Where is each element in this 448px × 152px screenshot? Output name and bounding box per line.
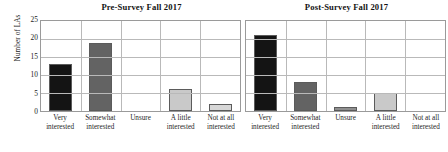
bar-slot [286, 21, 326, 111]
x-tick-label-line: interested [81, 123, 119, 132]
x-tick-label-line: Unsure [326, 114, 364, 123]
gridline-vertical [405, 21, 406, 111]
x-tick-label: Not at allinterested [201, 114, 241, 133]
x-tick-label-line: interested [162, 123, 200, 132]
x-tick-label-line: Very [41, 114, 79, 123]
x-tick-label-line: Not at all [202, 114, 240, 123]
x-tick-label-line: interested [246, 123, 284, 132]
plot-area-post-survey [245, 20, 446, 112]
x-tick-label-line: Somewhat [286, 114, 324, 123]
x-tick-label-line: interested [286, 123, 324, 132]
bar-slot [121, 21, 161, 111]
x-tick-label: Unsure [120, 114, 160, 133]
y-axis: Number of LAs 2520151050 [0, 0, 40, 152]
panel-title-pre-survey: Pre-Survey Fall 2017 [40, 2, 243, 12]
gridline-horizontal [41, 93, 240, 94]
x-tick-label-line: A little [162, 114, 200, 123]
x-tick-label-line: Unsure [121, 114, 159, 123]
bar-slot [405, 21, 445, 111]
y-tick-label: 15 [16, 53, 38, 60]
x-tick-label-line: interested [367, 123, 405, 132]
bar [334, 107, 357, 111]
bar [294, 82, 317, 111]
bar [49, 64, 72, 111]
x-axis-labels-post-survey: VeryinterestedSomewhatinterestedUnsureA … [245, 114, 446, 133]
gridline-vertical [286, 21, 287, 111]
x-tick-label: Somewhatinterested [80, 114, 120, 133]
gridline-vertical [200, 21, 201, 111]
gridline-horizontal [246, 75, 445, 76]
gridline-horizontal [246, 93, 445, 94]
gridline-vertical [326, 21, 327, 111]
x-tick-label-line: Somewhat [81, 114, 119, 123]
bar-group-pre-survey [41, 21, 240, 111]
gridline-vertical [81, 21, 82, 111]
panel-pre-survey: Pre-Survey Fall 2017 VeryinterestedSomew… [40, 0, 243, 152]
y-tick-label: 10 [16, 71, 38, 78]
gridline-vertical [160, 21, 161, 111]
bar [209, 104, 232, 111]
gridline-horizontal [246, 57, 445, 58]
bar [254, 35, 277, 111]
x-tick-label: A littleinterested [161, 114, 201, 133]
x-tick-label-line: interested [407, 123, 445, 132]
x-tick-label-line: A little [367, 114, 405, 123]
bar-slot [365, 21, 405, 111]
gridline-horizontal [41, 57, 240, 58]
panel-title-post-survey: Post-Survey Fall 2017 [245, 2, 448, 12]
x-tick-label-line: interested [41, 123, 79, 132]
gridline-horizontal [41, 75, 240, 76]
bar-slot [41, 21, 81, 111]
bar-slot [200, 21, 240, 111]
bar-slot [246, 21, 286, 111]
two-panel-bar-chart-figure: Number of LAs 2520151050 Pre-Survey Fall… [0, 0, 448, 152]
x-tick-label: Somewhatinterested [285, 114, 325, 133]
y-axis-tick-labels: 2520151050 [16, 20, 38, 112]
bar [374, 93, 397, 111]
x-tick-label: A littleinterested [366, 114, 406, 133]
y-tick-label: 25 [16, 16, 38, 23]
y-tick-label: 5 [16, 90, 38, 97]
x-tick-label: Not at allinterested [406, 114, 446, 133]
bar-slot [81, 21, 121, 111]
x-tick-label: Veryinterested [40, 114, 80, 133]
x-tick-label-line: interested [202, 123, 240, 132]
bar-slot [326, 21, 366, 111]
x-tick-label: Unsure [325, 114, 365, 133]
x-axis-labels-pre-survey: VeryinterestedSomewhatinterestedUnsureA … [40, 114, 241, 133]
x-tick-label: Veryinterested [245, 114, 285, 133]
x-tick-label-line: Not at all [407, 114, 445, 123]
panel-post-survey: Post-Survey Fall 2017 VeryinterestedSome… [245, 0, 448, 152]
gridline-horizontal [246, 39, 445, 40]
x-tick-label-line: Very [246, 114, 284, 123]
bar [89, 43, 112, 111]
plot-area-pre-survey [40, 20, 241, 112]
gridline-vertical [365, 21, 366, 111]
gridline-horizontal [41, 39, 240, 40]
gridline-vertical [121, 21, 122, 111]
bar-slot [160, 21, 200, 111]
y-tick-label: 0 [16, 108, 38, 115]
bar-group-post-survey [246, 21, 445, 111]
y-tick-label: 20 [16, 35, 38, 42]
